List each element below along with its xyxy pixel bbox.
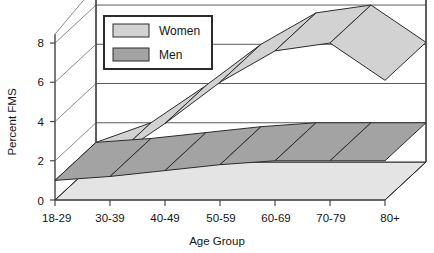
percent-fms-by-age-group-area-chart: 8 6 4 2 0 Percent FMS 18-29 30-39 40-49 …: [0, 0, 434, 253]
y-tick-label-0: 0: [38, 195, 44, 207]
y-tick-label-6: 6: [38, 76, 44, 88]
x-tick-label-50-59: 50-59: [206, 212, 235, 224]
x-tick-label-80-plus: 80+: [380, 212, 400, 224]
chart-container: 8 6 4 2 0 Percent FMS 18-29 30-39 40-49 …: [0, 0, 434, 253]
x-tick-label-30-39: 30-39: [95, 212, 124, 224]
x-tick-label-40-49: 40-49: [150, 212, 179, 224]
y-axis-tick-labels: 8 6 4 2 0: [38, 37, 45, 207]
legend-label-men: Men: [159, 48, 182, 62]
x-tick-label-60-69: 60-69: [261, 212, 290, 224]
y-axis-title: Percent FMS: [6, 88, 18, 155]
legend-swatch-women: [113, 24, 149, 37]
y-tick-label-4: 4: [38, 116, 45, 128]
y-tick-label-8: 8: [38, 37, 44, 49]
x-tick-label-18-29: 18-29: [42, 212, 71, 224]
x-axis-title: Age Group: [189, 235, 245, 247]
chart-legend: Women Men: [104, 16, 212, 69]
x-tick-label-70-79: 70-79: [316, 212, 345, 224]
legend-swatch-men: [113, 48, 149, 61]
legend-label-women: Women: [159, 24, 200, 38]
x-axis-tick-labels: 18-29 30-39 40-49 50-59 60-69 70-79 80+: [42, 212, 400, 224]
y-tick-label-2: 2: [38, 155, 44, 167]
